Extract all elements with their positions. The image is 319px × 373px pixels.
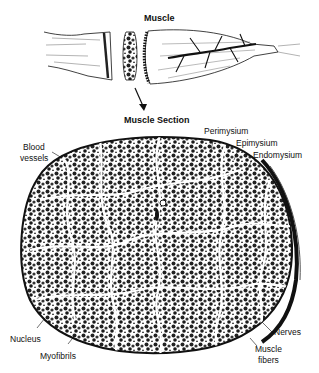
title-muscle: Muscle xyxy=(144,13,175,23)
label-myofibrils: Myofibrils xyxy=(40,352,76,361)
label-muscle-fibers-1: Muscle xyxy=(255,345,282,354)
label-nerves: Nerves xyxy=(274,328,301,337)
label-muscle-fibers-2: fibers xyxy=(258,356,279,365)
muscle-cross-section xyxy=(21,135,300,355)
label-blood-vessels-1: Blood xyxy=(23,143,45,152)
label-blood-vessels-2: vessels xyxy=(20,154,48,163)
muscle-whole-drawing xyxy=(44,30,300,84)
muscle-illustration xyxy=(0,0,319,373)
label-endomysium: Endomysium xyxy=(253,151,302,160)
title-muscle-section: Muscle Section xyxy=(124,115,190,125)
arrow-icon xyxy=(135,88,147,111)
label-epimysium: Epimysium xyxy=(236,139,278,148)
label-perimysium: Perimysium xyxy=(204,127,248,136)
label-nucleus: Nucleus xyxy=(10,335,41,344)
